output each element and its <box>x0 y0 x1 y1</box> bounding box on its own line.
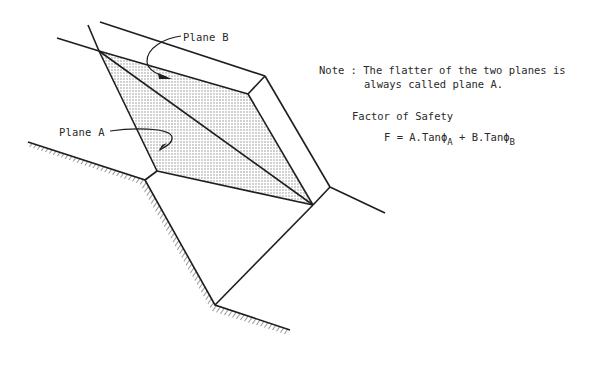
factor-of-safety-title: Factor of Safety <box>352 110 453 122</box>
factor-of-safety-equation: F = A.TanϕA + B.TanϕB <box>384 131 515 147</box>
wedge-failure-diagram <box>0 0 599 391</box>
term-b: B.Tanϕ <box>472 131 510 143</box>
term-a: A.Tanϕ <box>409 131 447 143</box>
note-line-2: always called plane A. <box>319 77 566 91</box>
plane-a-label: Plane A <box>59 126 105 138</box>
plane-b-label: Plane B <box>183 31 229 43</box>
subscript-b: B <box>510 137 515 147</box>
note-line-1: The flatter of the two planes is <box>363 64 565 76</box>
note: Note : The flatter of the two planes is … <box>319 63 566 91</box>
note-prefix: Note : <box>319 64 363 76</box>
plus-sign: + <box>453 131 472 143</box>
equation-lhs: F = <box>384 131 409 143</box>
